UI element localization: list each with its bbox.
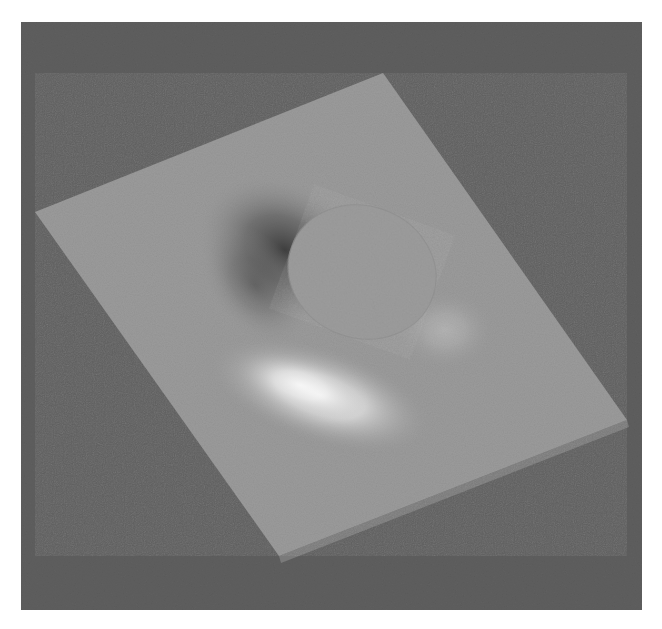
plate-render-svg	[0, 0, 662, 629]
rendered-figure	[0, 0, 662, 629]
